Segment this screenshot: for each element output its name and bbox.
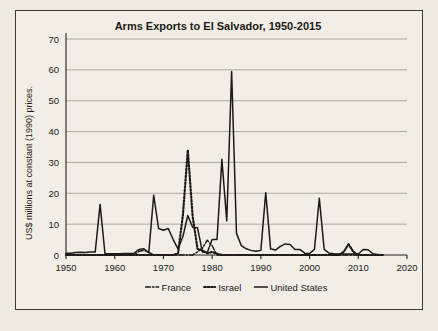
screenshot-page: Arms Exports to El Salvador, 1950-2015 U…	[0, 0, 438, 331]
legend-label-united-states[interactable]: United States	[270, 282, 327, 293]
y-tick-label: 20	[48, 188, 59, 199]
y-tick-label: 40	[48, 126, 59, 137]
y-tick-label: 30	[48, 157, 59, 168]
y-tick-label: 70	[48, 34, 59, 45]
x-tick-label: 1950	[55, 262, 76, 273]
x-tick-label: 1990	[250, 262, 271, 273]
series-line-united-states	[66, 71, 383, 255]
y-tick-label: 60	[48, 64, 59, 75]
legend-label-israel[interactable]: Israel	[218, 282, 241, 293]
series-line-france	[66, 240, 383, 255]
x-tick-label: 1970	[153, 262, 174, 273]
y-tick-label: 50	[48, 95, 59, 106]
y-tick-labels: 010203040506070	[48, 34, 59, 261]
series-line-israel	[66, 150, 383, 255]
y-tick-label: 10	[48, 219, 59, 230]
x-tick-label: 2000	[299, 262, 320, 273]
data-series-layer	[66, 71, 383, 255]
y-tick-label: 0	[54, 250, 59, 261]
y-axis-label: US$ millions at constant (1990) prices.	[24, 86, 34, 240]
x-tick-label: 2010	[348, 262, 369, 273]
legend-label-france[interactable]: France	[162, 282, 192, 293]
chart-figure-frame: Arms Exports to El Salvador, 1950-2015 U…	[15, 10, 423, 310]
x-tick-label: 2020	[396, 262, 417, 273]
x-tick-label: 1960	[104, 262, 125, 273]
x-tick-label: 1980	[202, 262, 223, 273]
chart-title: Arms Exports to El Salvador, 1950-2015	[115, 20, 322, 32]
x-tick-labels: 19501960197019801990200020102020	[55, 255, 417, 273]
chart-legend: FranceIsraelUnited States	[146, 282, 328, 293]
arms-exports-chart: Arms Exports to El Salvador, 1950-2015 U…	[16, 11, 421, 308]
